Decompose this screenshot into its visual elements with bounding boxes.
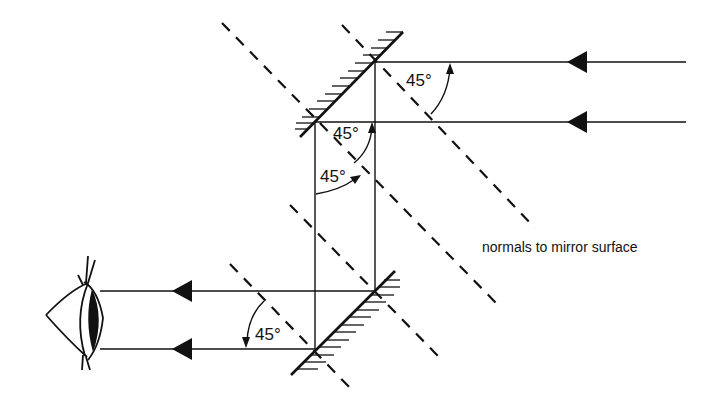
- angle-label-bottom-mirror: 45°: [255, 325, 281, 344]
- normals-caption: normals to mirror surface: [482, 239, 638, 255]
- eye-icon: [46, 256, 103, 370]
- angle-arcs: [242, 63, 454, 348]
- angle-arc-top-right: [431, 68, 450, 114]
- normal-bottom-right: [290, 205, 440, 358]
- arrowhead-icon: [567, 111, 587, 133]
- arrow-icon: [446, 63, 454, 74]
- angle-label-top-right: 45°: [406, 71, 432, 90]
- angle-label-top-mirror-upper: 45°: [333, 124, 359, 143]
- bottom-mirror: [291, 271, 400, 375]
- normal-bottom-left: [230, 264, 352, 390]
- arrowhead-icon: [172, 338, 192, 360]
- arrow-icon: [242, 337, 250, 348]
- top-mirror: [295, 32, 403, 137]
- normal-top-left: [222, 23, 498, 305]
- arrowhead-icon: [567, 51, 587, 73]
- arrow-icon: [350, 175, 361, 184]
- arrowhead-icon: [172, 280, 192, 302]
- angle-label-top-mirror-lower: 45°: [320, 167, 346, 186]
- periscope-diagram: 45° 45° 45° 45° normals to mirror surfac…: [0, 0, 716, 410]
- outgoing-rays: [100, 280, 375, 360]
- vertical-rays: [315, 62, 375, 349]
